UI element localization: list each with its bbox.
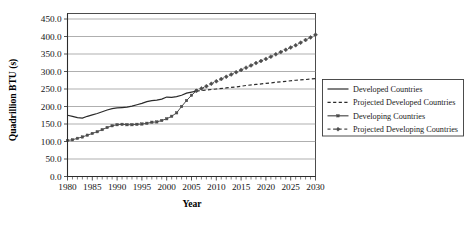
y-tick-label: 250.0 [41, 84, 62, 94]
legend-label: Developed Countries [353, 85, 422, 94]
chart-canvas: 0.050.0100.0150.0200.0250.0300.0350.0400… [0, 0, 466, 226]
legend-label: Projected Developed Countries [353, 98, 455, 107]
x-tick-label: 1985 [83, 182, 102, 192]
y-tick-label: 150.0 [41, 119, 62, 129]
x-tick-label: 2030 [306, 182, 325, 192]
legend-label: Projected Developing Countries [353, 125, 458, 134]
energy-consumption-chart: 0.050.0100.0150.0200.0250.0300.0350.0400… [0, 0, 466, 226]
x-axis-title: Year [182, 198, 202, 209]
x-tick-label: 1995 [133, 182, 152, 192]
x-tick-label: 2010 [207, 182, 226, 192]
x-tick-label: 1980 [58, 182, 77, 192]
chart-legend: Developed CountriesProjected Developed C… [323, 80, 464, 137]
y-tick-label: 50.0 [45, 154, 61, 164]
y-tick-label: 300.0 [41, 67, 62, 77]
x-tick-label: 2020 [257, 182, 276, 192]
y-tick-label: 350.0 [41, 49, 62, 59]
x-tick-label: 2015 [232, 182, 251, 192]
y-axis-title: Quadrillion BTU (s) [7, 59, 19, 142]
x-tick-label: 2025 [282, 182, 301, 192]
x-tick-label: 2000 [158, 182, 177, 192]
y-tick-label: 100.0 [41, 137, 62, 147]
y-tick-label: 450.0 [41, 14, 62, 24]
legend-label: Developing Countries [353, 112, 425, 121]
x-tick-label: 2005 [182, 182, 201, 192]
x-tick-label: 1990 [108, 182, 127, 192]
y-tick-label: 0.0 [50, 172, 62, 182]
y-tick-label: 200.0 [41, 102, 62, 112]
y-tick-label: 400.0 [41, 32, 62, 42]
